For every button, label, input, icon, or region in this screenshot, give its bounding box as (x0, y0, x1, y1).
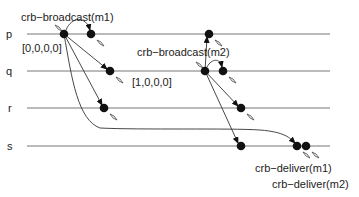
m2-to-r-arrow (205, 71, 238, 106)
process-label-r: r (8, 102, 12, 114)
event-s-receive-m2 (237, 142, 246, 151)
event-p-broadcast-m1 (60, 30, 69, 39)
label-clock-q: [1,0,0,0] (132, 76, 172, 88)
label-clock-p: [0,0,0,0] (22, 42, 62, 54)
process-label-q: q (6, 65, 12, 77)
event-s-deliver-m1 (293, 142, 302, 151)
event-r-deliver-m2 (237, 104, 246, 113)
m1-to-r-arrow (64, 34, 102, 105)
event-p-deliver-m1 (87, 30, 96, 39)
broadcast-m1-pointer-icon (55, 25, 62, 31)
event-q-broadcast-m2 (201, 67, 210, 76)
process-label-p: p (6, 28, 12, 40)
event-q-deliver-m1 (106, 67, 115, 76)
event-s-deliver-m2 (302, 142, 311, 151)
process-label-s: s (7, 140, 13, 152)
label-broadcast-m2: crb−broadcast(m2) (137, 46, 230, 58)
causal-broadcast-diagram: p q r s (0, 0, 359, 197)
event-r-deliver-m1 (100, 104, 109, 113)
event-q-deliver-m2 (219, 67, 228, 76)
deliver-pointer-icon (116, 77, 123, 83)
label-deliver-m2: crb−deliver(m2) (272, 178, 349, 190)
deliver-pointer-icon (247, 114, 254, 120)
broadcast-m2-pointer-icon (196, 62, 203, 68)
deliver-m2-pointer-icon (312, 152, 319, 158)
event-p-deliver-m2 (205, 30, 214, 39)
m1-to-q-arrow (64, 34, 107, 69)
deliver-m1-pointer-icon (303, 152, 310, 158)
label-deliver-m1: crb−deliver(m1) (255, 162, 332, 174)
deliver-pointer-icon (229, 77, 236, 83)
m1-messages (64, 20, 295, 144)
label-broadcast-m1: crb−broadcast(m1) (21, 11, 114, 23)
m2-self-arrow (207, 60, 222, 67)
deliver-pointer-icon (110, 114, 117, 120)
deliver-pointer-icon (97, 40, 104, 46)
